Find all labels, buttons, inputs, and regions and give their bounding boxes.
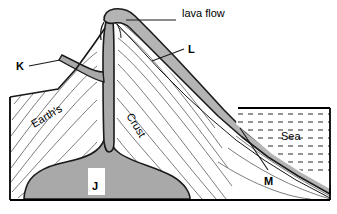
label-lava-flow: lava flow bbox=[182, 7, 225, 19]
label-m: M bbox=[264, 175, 273, 187]
label-sea: Sea bbox=[281, 130, 301, 142]
label-l: L bbox=[188, 43, 195, 55]
label-k: K bbox=[16, 60, 24, 72]
volcano-diagram: lava flow K L M J Earth's Crust Sea bbox=[0, 0, 337, 214]
label-j: J bbox=[92, 180, 98, 192]
volcano-cross-section-figure: lava flow K L M J Earth's Crust Sea bbox=[0, 0, 337, 214]
label-j-group: J bbox=[88, 168, 105, 195]
volcanic-conduit bbox=[103, 22, 114, 152]
leader-k bbox=[29, 60, 60, 66]
